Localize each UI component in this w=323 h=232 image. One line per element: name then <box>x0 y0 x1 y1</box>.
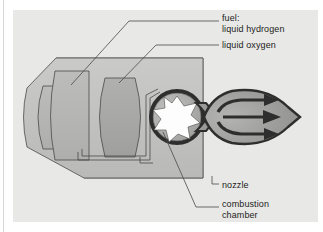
label-nozzle: nozzle <box>222 180 249 191</box>
label-fuel: fuel: liquid hydrogen <box>222 13 285 34</box>
lox-tank-liquid-oxygen <box>100 78 141 157</box>
combustion-chamber <box>151 91 203 143</box>
diagram-artwork <box>0 0 323 232</box>
leader-line-nozzle <box>212 176 219 184</box>
label-liquid-oxygen: liquid oxygen <box>222 40 276 51</box>
label-combustion-chamber: combustion chamber <box>222 199 269 220</box>
rocket-engine-diagram: fuel: liquid hydrogen liquid oxygen nozz… <box>0 0 323 232</box>
